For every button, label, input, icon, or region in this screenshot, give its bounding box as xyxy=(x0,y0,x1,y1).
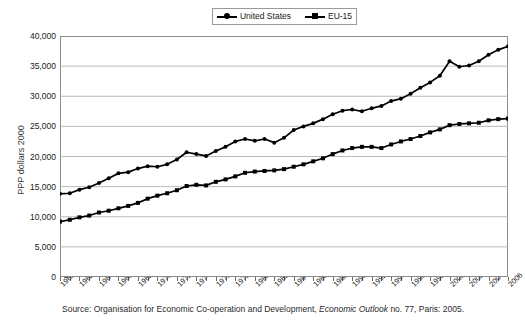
data-point-marker xyxy=(438,127,442,131)
data-point-marker xyxy=(272,168,276,172)
data-point-marker xyxy=(389,99,393,103)
data-point-marker xyxy=(360,145,364,149)
data-point-marker xyxy=(418,86,422,90)
data-point-marker xyxy=(340,109,344,113)
data-point-marker xyxy=(87,214,91,218)
data-point-marker xyxy=(506,117,508,121)
data-point-marker xyxy=(146,164,150,168)
source-prefix: Source: Organisation for Economic Co-ope… xyxy=(62,304,319,314)
data-point-marker xyxy=(165,162,169,166)
data-point-marker xyxy=(467,121,471,125)
data-point-marker xyxy=(272,141,276,145)
data-point-marker xyxy=(496,48,500,52)
data-point-marker xyxy=(77,215,81,219)
data-point-marker xyxy=(496,117,500,121)
data-point-marker xyxy=(409,137,413,141)
data-point-marker xyxy=(116,171,120,175)
data-point-marker xyxy=(379,146,383,150)
data-point-marker xyxy=(60,192,62,196)
data-point-marker xyxy=(487,118,491,122)
data-point-marker xyxy=(477,121,481,125)
data-point-marker xyxy=(194,183,198,187)
x-tick-label: 2006 xyxy=(507,271,524,288)
chart-page: United States EU-15 PPP dollars 2000 05,… xyxy=(0,0,525,325)
data-point-marker xyxy=(379,104,383,108)
data-point-marker xyxy=(301,124,305,128)
source-note: Source: Organisation for Economic Co-ope… xyxy=(62,304,464,314)
data-point-marker xyxy=(175,188,179,192)
data-point-marker xyxy=(457,122,461,126)
line-chart-canvas xyxy=(60,36,508,277)
data-point-marker xyxy=(175,158,179,162)
data-point-marker xyxy=(399,97,403,101)
data-point-marker xyxy=(399,139,403,143)
data-point-marker xyxy=(155,165,159,169)
data-point-marker xyxy=(204,183,208,187)
data-point-marker xyxy=(126,170,130,174)
data-point-marker xyxy=(321,117,325,121)
data-point-marker xyxy=(107,176,111,180)
data-point-marker xyxy=(350,146,354,150)
data-point-marker xyxy=(263,169,267,173)
data-point-marker xyxy=(370,145,374,149)
data-point-marker xyxy=(87,185,91,189)
data-point-marker xyxy=(68,218,72,222)
data-point-marker xyxy=(146,197,150,201)
data-point-marker xyxy=(97,181,101,185)
data-point-marker xyxy=(418,134,422,138)
data-point-marker xyxy=(331,112,335,116)
data-point-marker xyxy=(253,170,257,174)
data-point-marker xyxy=(360,109,364,113)
data-point-marker xyxy=(301,162,305,166)
data-point-marker xyxy=(370,106,374,110)
data-point-marker xyxy=(389,142,393,146)
data-point-marker xyxy=(224,145,228,149)
data-point-marker xyxy=(60,220,62,224)
data-point-marker xyxy=(233,139,237,143)
data-point-marker xyxy=(233,174,237,178)
data-point-marker xyxy=(185,184,189,188)
data-point-marker xyxy=(467,64,471,68)
data-point-marker xyxy=(253,139,257,143)
data-point-marker xyxy=(155,194,159,198)
data-point-marker xyxy=(77,188,81,192)
data-point-marker xyxy=(282,167,286,171)
data-point-marker xyxy=(214,149,218,153)
data-point-marker xyxy=(477,59,481,63)
data-point-marker xyxy=(214,180,218,184)
data-point-marker xyxy=(68,191,72,195)
data-point-marker xyxy=(457,65,461,69)
data-point-marker xyxy=(204,154,208,158)
source-italic-title: Economic Outlook xyxy=(319,304,388,314)
data-point-marker xyxy=(165,191,169,195)
data-point-marker xyxy=(340,148,344,152)
data-point-marker xyxy=(428,80,432,84)
data-point-marker xyxy=(107,209,111,213)
data-point-marker xyxy=(292,128,296,132)
data-point-marker xyxy=(136,201,140,205)
data-point-marker xyxy=(350,108,354,112)
data-point-marker xyxy=(282,136,286,140)
data-point-marker xyxy=(224,177,228,181)
source-suffix: no. 77, Paris: 2005. xyxy=(388,304,464,314)
data-point-marker xyxy=(448,59,452,63)
data-point-marker xyxy=(243,137,247,141)
data-point-marker xyxy=(97,211,101,215)
data-point-marker xyxy=(194,152,198,156)
data-point-marker xyxy=(311,121,315,125)
data-point-marker xyxy=(185,150,189,154)
data-point-marker xyxy=(438,74,442,78)
data-point-marker xyxy=(311,159,315,163)
data-point-marker xyxy=(321,156,325,160)
data-point-marker xyxy=(448,123,452,127)
data-point-marker xyxy=(331,152,335,156)
data-point-marker xyxy=(292,165,296,169)
plot-area xyxy=(60,36,508,277)
data-point-marker xyxy=(428,130,432,134)
data-point-marker xyxy=(126,204,130,208)
data-point-marker xyxy=(136,167,140,171)
data-point-marker xyxy=(243,171,247,175)
data-point-marker xyxy=(409,92,413,96)
data-point-marker xyxy=(263,137,267,141)
data-point-marker xyxy=(116,206,120,210)
